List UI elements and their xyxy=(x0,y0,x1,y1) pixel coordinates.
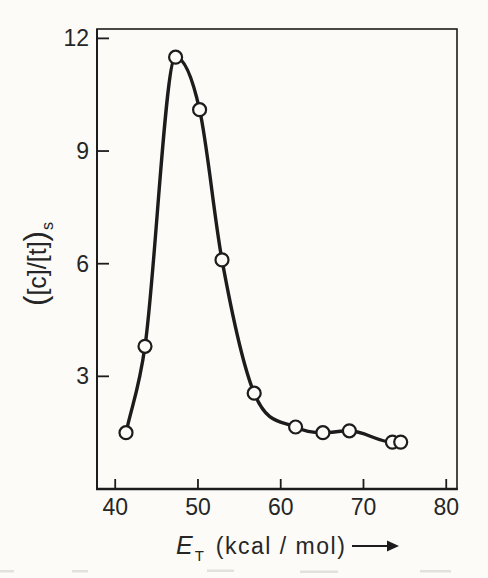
data-point-marker xyxy=(120,426,133,439)
x-axis-label-units: (kcal / mol) xyxy=(216,533,346,559)
x-axis-label: ET(kcal / mol) xyxy=(176,531,346,564)
x-tick-label: 70 xyxy=(351,494,377,520)
y-tick-label: 12 xyxy=(63,25,89,51)
right-arrow-icon xyxy=(352,541,399,552)
data-point-marker xyxy=(343,424,356,437)
data-point-marker xyxy=(248,387,261,400)
y-axis-label-core: [c]/[t] xyxy=(23,241,51,295)
x-tick-label: 40 xyxy=(102,494,128,520)
data-point-marker xyxy=(316,426,329,439)
data-point-marker xyxy=(139,340,152,353)
data-point-marker xyxy=(394,436,407,449)
y-tick-label: 3 xyxy=(76,363,89,389)
y-tick-label: 6 xyxy=(76,251,89,277)
scan-artifact xyxy=(0,570,451,574)
y-axis-label: ([c]/[t])s xyxy=(18,222,56,306)
axis-ticks xyxy=(97,38,446,489)
scanned-figure-page: 405060708036912 ([c]/[t])s ET(kcal / mol… xyxy=(0,0,488,578)
data-point-marker xyxy=(193,103,206,116)
data-point-marker xyxy=(289,421,302,434)
x-axis-label-symbol: E xyxy=(176,531,193,559)
x-tick-label: 80 xyxy=(433,494,459,520)
line-chart: 405060708036912 ([c]/[t])s ET(kcal / mol… xyxy=(0,0,488,578)
data-curve xyxy=(126,57,401,442)
data-point-markers xyxy=(120,51,408,449)
x-axis-label-subscript: T xyxy=(195,547,204,564)
series-line xyxy=(126,57,401,442)
x-tick-label: 50 xyxy=(185,494,211,520)
y-tick-label: 9 xyxy=(76,138,89,164)
x-tick-label: 60 xyxy=(268,494,294,520)
y-axis-label-close-paren: ) xyxy=(18,231,53,241)
data-point-marker xyxy=(169,51,182,64)
y-axis-label-subscript: s xyxy=(39,222,56,230)
data-point-marker xyxy=(216,253,229,266)
